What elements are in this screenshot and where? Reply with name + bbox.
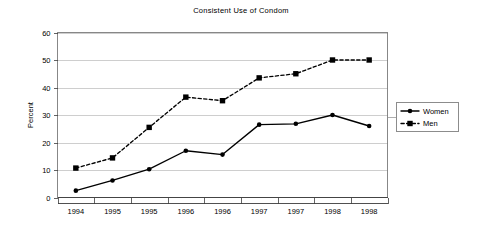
legend-item-label: Men: [423, 119, 438, 128]
plot-area-frame: [58, 33, 388, 198]
x-axis-tick-label: 1998: [324, 207, 341, 216]
x-axis-tick-label: 1997: [287, 207, 304, 216]
x-axis-tick-labels: 199419951995199619961997199719981998: [67, 207, 377, 216]
y-axis-tick-label: 50: [42, 56, 50, 65]
data-point-men-7: [330, 57, 335, 62]
y-axis-tick-label: 20: [42, 139, 50, 148]
data-point-women-6: [294, 122, 299, 127]
x-axis-tick-label: 1995: [104, 207, 121, 216]
data-point-men-2: [146, 125, 151, 130]
chart-figure: Consistent Use of Condom Percent 0102030…: [0, 0, 482, 232]
data-point-women-2: [147, 167, 152, 172]
chart-title: Consistent Use of Condom: [193, 6, 289, 15]
data-point-women-5: [257, 122, 262, 127]
data-point-women-3: [184, 148, 189, 153]
legend-swatch-marker: [408, 109, 413, 114]
data-point-men-0: [73, 165, 78, 170]
x-axis-tick-label: 1995: [141, 207, 158, 216]
x-axis-tick-label: 1997: [251, 207, 268, 216]
data-point-women-4: [220, 152, 225, 157]
y-axis-tick-label: 60: [42, 29, 50, 38]
series-line-men: [76, 60, 369, 168]
data-point-men-1: [110, 155, 115, 160]
legend-item-label: Women: [423, 107, 449, 116]
data-point-women-0: [74, 188, 79, 193]
y-axis-tick-label: 40: [42, 84, 50, 93]
x-axis-tick-label: 1998: [361, 207, 378, 216]
data-point-men-5: [256, 75, 261, 80]
y-axis-tick-marks: [54, 34, 58, 199]
y-axis-tick-label: 10: [42, 166, 50, 175]
x-axis-tick-label: 1996: [214, 207, 231, 216]
x-axis-tick-label: 1994: [67, 207, 84, 216]
data-series-layer: [73, 57, 372, 193]
y-axis-tick-label: 0: [46, 194, 50, 203]
y-axis-tick-label: 30: [42, 111, 50, 120]
data-point-men-6: [293, 71, 298, 76]
data-point-men-3: [183, 94, 188, 99]
y-axis-title: Percent: [26, 101, 35, 128]
x-axis-tick-label: 1996: [177, 207, 194, 216]
legend-swatch-marker: [407, 121, 412, 126]
data-point-women-8: [367, 124, 372, 129]
data-point-women-1: [110, 178, 115, 183]
y-axis-tick-labels: 0102030405060: [42, 29, 50, 203]
data-point-women-7: [330, 113, 335, 118]
chart-canvas: Consistent Use of Condom Percent 0102030…: [0, 0, 482, 232]
x-axis-tick-marks: [59, 198, 389, 204]
data-point-men-4: [220, 98, 225, 103]
data-point-men-8: [366, 57, 371, 62]
